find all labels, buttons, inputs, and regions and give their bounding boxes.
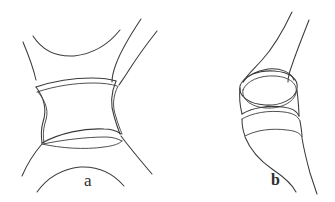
panel-a-disc-superior-endplate-outer (36, 78, 116, 87)
panel-b-inferior-body-ring-anterior (242, 119, 245, 136)
panel-a-drawing (22, 19, 157, 192)
panel-a-lower-left-body-border (22, 144, 42, 176)
panel-a-disc-inferior-endplate-outer (42, 129, 121, 143)
panel-a-upper-right-process-medial (112, 19, 141, 82)
panel-label-a: a (84, 172, 92, 189)
panel-a-left-superior-border (23, 42, 36, 80)
line-drawing-svg (0, 0, 335, 202)
panel-b-inferior-body-posterior-contour (302, 138, 317, 194)
panel-b-inferior-body-ring-plate (245, 129, 302, 137)
panel-b-disc-posterior-wall (297, 90, 299, 116)
panel-label-b: b (271, 172, 280, 188)
panel-b-superior-body-posterior-contour (288, 20, 309, 82)
panel-a-lower-body-outline (37, 167, 124, 192)
panel-a-lower-right-body-border (121, 136, 152, 174)
panel-b-disc-inferior-endplate-inner (242, 111, 300, 121)
panel-a-upper-left-body-outline (33, 30, 120, 56)
figure-canvas: a b (0, 0, 335, 202)
panel-a-disc-inferior-endplate-inner (43, 137, 122, 144)
panel-a-disc-superior-endplate-inner (37, 83, 117, 92)
panel-b-drawing (240, 12, 317, 194)
panel-a-upper-right-process-lateral (119, 31, 157, 85)
